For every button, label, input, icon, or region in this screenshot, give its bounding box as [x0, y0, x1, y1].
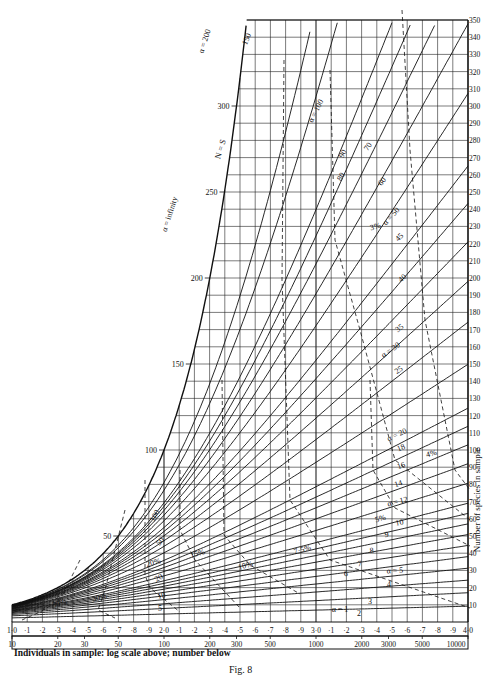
x-log-tick-label: ·9: [298, 626, 304, 635]
x-number-tick-label: 500: [265, 640, 277, 649]
x-number-tick-label: 3000: [381, 640, 396, 649]
x-log-tick-label: ·2: [191, 626, 197, 635]
x-log-tick-label: ·3: [206, 626, 212, 635]
right-tick-label: 120: [469, 412, 481, 421]
x-log-tick-label: ·2: [343, 626, 349, 635]
right-tick-label: 250: [469, 188, 481, 197]
right-tick-label: 210: [469, 257, 481, 266]
right-tick-label: 240: [469, 205, 481, 214]
x-number-tick-label: 5000: [415, 640, 430, 649]
percent-label: 15%: [189, 547, 206, 560]
x-log-tick-label: ·1: [328, 626, 334, 635]
x-log-tick-label: ·2: [39, 626, 45, 635]
x-log-tick-label: 4·0: [463, 626, 473, 635]
right-tick-label: 280: [469, 136, 481, 145]
figure-caption: Fig. 8: [229, 664, 252, 675]
right-tick-label: 20: [469, 584, 477, 593]
right-tick-label: 180: [469, 308, 481, 317]
right-tick-label: 270: [469, 154, 481, 163]
percent-label: 20%: [145, 556, 162, 569]
alpha-label: 35: [394, 322, 406, 334]
n-equals-s-label: N = S: [212, 138, 228, 160]
right-tick-label: 160: [469, 343, 481, 352]
x-log-tick-label: ·6: [252, 626, 258, 635]
alpha-label: 40: [396, 272, 408, 284]
alpha-label: 7: [357, 559, 362, 568]
left-tick-label: 50: [103, 532, 111, 541]
left-tick-label: 300: [218, 102, 230, 111]
alpha-label: α = 12: [386, 495, 408, 509]
alpha-label: α = 30: [380, 340, 402, 359]
x-log-tick-label: ·8: [434, 626, 440, 635]
right-tick-label: 200: [469, 274, 481, 283]
percent-label: 30%: [91, 591, 108, 604]
nomogram-plot: α = 200150α = 10090807060α = 50454035α =…: [0, 0, 485, 684]
alpha-label: 6: [344, 569, 349, 578]
right-tick-label: 310: [469, 85, 481, 94]
x-log-tick-label: ·1: [24, 626, 30, 635]
alpha-label: 8: [369, 546, 374, 555]
x-log-tick-label: ·7: [419, 626, 425, 635]
percent-label: 7·5%: [293, 543, 312, 556]
left-tick-label: 100: [145, 446, 157, 455]
right-tick-label: 170: [469, 326, 481, 335]
x-log-tick-label: ·4: [374, 626, 380, 635]
right-tick-label: 150: [469, 360, 481, 369]
x-log-tick-label: ·4: [222, 626, 228, 635]
x-log-tick-label: 1·0: [7, 626, 17, 635]
percent-label: 4%: [425, 448, 438, 460]
x-log-tick-label: ·5: [389, 626, 395, 635]
right-tick-label: 140: [469, 377, 481, 386]
right-tick-label: 260: [469, 171, 481, 180]
x-log-tick-label: ·1: [176, 626, 182, 635]
right-tick-label: 130: [469, 394, 481, 403]
x-log-tick-label: ·5: [237, 626, 243, 635]
x-number-tick-label: 2000: [354, 640, 369, 649]
right-tick-label: 220: [469, 240, 481, 249]
x-log-tick-label: ·6: [404, 626, 410, 635]
x-log-tick-label: ·9: [450, 626, 456, 635]
alpha-label: α = 100: [306, 98, 325, 124]
x-log-tick-label: 2·0: [159, 626, 169, 635]
alpha-label: 70: [362, 141, 374, 153]
inner-label: 20: [153, 572, 164, 584]
alpha-label: 3: [368, 597, 372, 606]
x-number-tick-label: 300: [231, 640, 243, 649]
left-tick-label: 150: [172, 360, 184, 369]
right-tick-label: 290: [469, 119, 481, 128]
x-log-tick-label: ·7: [267, 626, 273, 635]
percent-label: 3%: [369, 221, 382, 233]
x-log-tick-label: ·3: [54, 626, 60, 635]
alpha-label: 25: [393, 364, 405, 376]
alpha-label: 2: [357, 609, 361, 618]
right-tick-label: 230: [469, 222, 481, 231]
right-tick-label: 30: [469, 566, 477, 575]
alpha-label: α = 1: [332, 605, 349, 614]
left-tick-label: 250: [205, 188, 217, 197]
right-tick-label: 110: [469, 429, 480, 438]
percent-label: 10%: [237, 559, 254, 572]
alpha-label: α = 5: [386, 566, 403, 576]
right-tick-label: 10: [469, 601, 477, 610]
x-log-tick-label: ·7: [115, 626, 121, 635]
alpha-label: 18: [396, 442, 407, 453]
x-log-tick-label: ·4: [70, 626, 76, 635]
x-log-tick-label: ·9: [146, 626, 152, 635]
y-axis-title: Number of species in sample: [472, 448, 482, 552]
boundary-n-equals-s: [12, 26, 246, 605]
alpha-label: 9: [384, 530, 389, 540]
x-number-tick-label: 1000: [309, 640, 324, 649]
x-axis-label: Individuals in sample: log scale above; …: [14, 648, 231, 658]
right-tick-label: 190: [469, 291, 481, 300]
x-log-tick-label: ·5: [85, 626, 91, 635]
alpha-label: α = 200: [197, 28, 213, 54]
inner-label: 5: [158, 604, 162, 613]
x-log-tick-label: ·8: [282, 626, 288, 635]
x-log-tick-label: ·8: [130, 626, 136, 635]
right-tick-label: 340: [469, 33, 481, 42]
alpha-label: α = 50: [381, 206, 402, 227]
x-log-tick-label: ·6: [100, 626, 106, 635]
right-tick-label: 300: [469, 102, 481, 111]
alpha-line: [12, 32, 310, 605]
alpha-infinity-label: α = infinity: [160, 196, 180, 233]
